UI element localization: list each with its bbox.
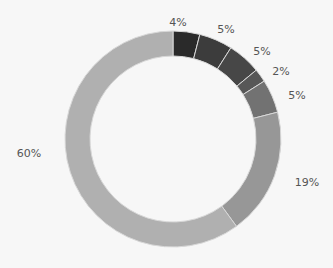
- data-label: 19%: [295, 176, 319, 189]
- data-label: 5%: [288, 89, 305, 102]
- donut-slices: [65, 31, 281, 247]
- data-label: 2%: [272, 65, 289, 78]
- donut-chart: 4%5%5%2%5%19%60%: [0, 0, 333, 268]
- donut-slice: [222, 112, 281, 226]
- data-label: 4%: [169, 16, 186, 29]
- data-label: 5%: [253, 45, 270, 58]
- data-label: 60%: [17, 147, 41, 160]
- data-label: 5%: [217, 23, 234, 36]
